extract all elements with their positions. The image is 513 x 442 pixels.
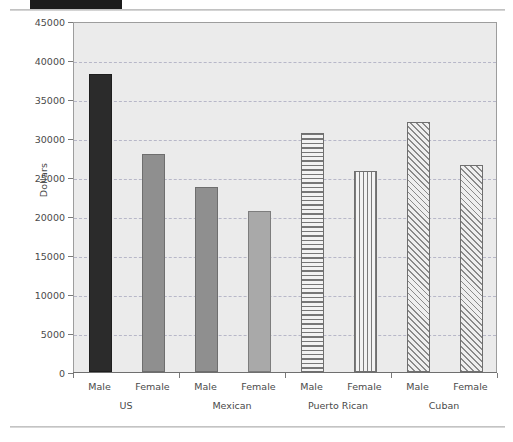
y-axis-tick-label: 45000 [17, 17, 65, 28]
x-axis-tick-mark [497, 373, 498, 378]
x-axis-tick-label: Male [88, 381, 111, 392]
y-axis-tick-label: 10000 [17, 290, 65, 301]
bar [195, 187, 218, 372]
x-axis-tick-label: Male [300, 381, 323, 392]
x-axis-tick-mark [179, 373, 180, 378]
x-axis-tick-label: Male [194, 381, 217, 392]
x-axis-tick-label: Female [135, 381, 169, 392]
x-axis-tick-mark [391, 373, 392, 378]
x-axis-tick-mark [285, 373, 286, 378]
x-axis-tick-label: Male [406, 381, 429, 392]
x-axis-group-label: Puerto Rican [308, 400, 368, 411]
y-axis-tick-label: 0 [17, 368, 65, 379]
x-axis-tick-label: Female [241, 381, 275, 392]
bar [142, 154, 165, 372]
y-axis-tick-label: 35000 [17, 95, 65, 106]
x-axis-tick-mark [73, 373, 74, 378]
x-axis-group-label: Mexican [212, 400, 251, 411]
bar-series [74, 23, 496, 372]
bar [248, 211, 271, 372]
bar [354, 171, 377, 372]
y-axis-tick-label: 5000 [17, 329, 65, 340]
bar [460, 165, 483, 372]
bar [301, 133, 324, 372]
plot-area [73, 22, 497, 373]
y-axis-tick-label: 20000 [17, 212, 65, 223]
y-axis-tick-label: 25000 [17, 173, 65, 184]
y-axis-tick-label: 40000 [17, 56, 65, 67]
x-axis-tick-label: Female [347, 381, 381, 392]
bar-chart: Dollars 05000100001500020000250003000035… [0, 0, 513, 442]
y-axis-tick-label: 30000 [17, 134, 65, 145]
x-axis-group-label: Cuban [429, 400, 460, 411]
y-axis-tick-label: 15000 [17, 251, 65, 262]
bar [407, 122, 430, 372]
x-axis-group-label: US [120, 400, 133, 411]
bar [89, 74, 112, 372]
x-axis-tick-label: Female [453, 381, 487, 392]
